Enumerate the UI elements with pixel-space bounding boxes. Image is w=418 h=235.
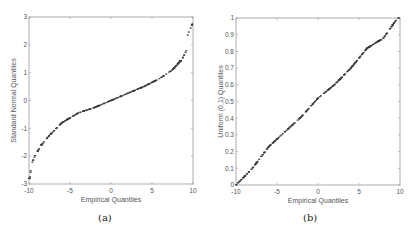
svg-text:Uniform (0,1) Quantiles: Uniform (0,1) Quantiles bbox=[217, 65, 225, 138]
svg-text:-10: -10 bbox=[231, 188, 241, 195]
svg-text:0.2: 0.2 bbox=[225, 148, 234, 155]
qq-plot-uniform: -10-5051000.10.20.30.40.50.60.70.80.91Em… bbox=[0, 0, 418, 235]
caption-b: (b) bbox=[303, 212, 317, 223]
svg-text:0.6: 0.6 bbox=[225, 81, 234, 88]
svg-text:0: 0 bbox=[316, 188, 320, 195]
svg-text:0.3: 0.3 bbox=[225, 131, 234, 138]
svg-text:Empirical Quantiles: Empirical Quantiles bbox=[288, 197, 349, 205]
svg-text:0.7: 0.7 bbox=[225, 64, 234, 71]
svg-text:0.1: 0.1 bbox=[225, 165, 234, 172]
svg-text:0.9: 0.9 bbox=[225, 31, 234, 38]
svg-text:0.4: 0.4 bbox=[225, 115, 234, 122]
svg-text:5: 5 bbox=[357, 188, 361, 195]
svg-text:10: 10 bbox=[396, 188, 404, 195]
svg-text:0: 0 bbox=[230, 181, 234, 188]
svg-text:0.8: 0.8 bbox=[225, 48, 234, 55]
svg-text:-5: -5 bbox=[274, 188, 280, 195]
svg-text:1: 1 bbox=[230, 14, 234, 21]
svg-text:0.5: 0.5 bbox=[225, 98, 234, 105]
